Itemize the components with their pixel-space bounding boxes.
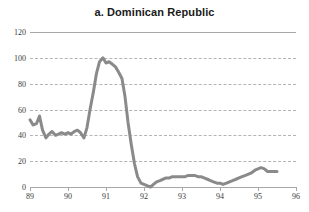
x-tick-label-93: 93: [178, 192, 186, 201]
series-polyline: [30, 58, 277, 187]
plot-area: 020406080100120 8990919293949596: [30, 32, 296, 187]
x-tick-91: [106, 187, 107, 191]
x-tick-89: [30, 187, 31, 191]
x-tick-92: [144, 187, 145, 191]
x-tick-96: [296, 187, 297, 191]
y-tick-label-100: 100: [14, 53, 26, 62]
chart-container: a. Dominican Republic 020406080100120 89…: [0, 0, 309, 212]
x-tick-label-94: 94: [216, 192, 224, 201]
x-tick-label-92: 92: [140, 192, 148, 201]
y-tick-label-20: 20: [18, 157, 26, 166]
gridline-y-0: [30, 187, 296, 188]
x-tick-label-96: 96: [292, 192, 300, 201]
y-tick-label-60: 60: [18, 105, 26, 114]
y-tick-label-120: 120: [14, 28, 26, 37]
x-tick-90: [68, 187, 69, 191]
x-tick-label-90: 90: [64, 192, 72, 201]
series-line-dominican-republic: [30, 32, 296, 187]
x-tick-93: [182, 187, 183, 191]
y-tick-label-40: 40: [18, 131, 26, 140]
y-tick-label-80: 80: [18, 79, 26, 88]
x-tick-label-89: 89: [26, 192, 34, 201]
x-tick-95: [258, 187, 259, 191]
x-tick-label-91: 91: [102, 192, 110, 201]
x-tick-label-95: 95: [254, 192, 262, 201]
chart-title: a. Dominican Republic: [0, 6, 309, 18]
x-tick-94: [220, 187, 221, 191]
y-tick-label-0: 0: [22, 183, 26, 192]
